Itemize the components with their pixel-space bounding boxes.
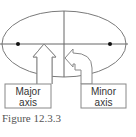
major-axis-label: Major axis xyxy=(5,86,51,108)
minor-axis-label-line1: Minor xyxy=(81,86,126,97)
minor-axis-label: Minor axis xyxy=(81,86,126,108)
minor-axis-label-line2: axis xyxy=(81,97,126,108)
focus-right xyxy=(108,42,112,46)
figure-caption: Figure 12.3.3 xyxy=(2,112,61,124)
focus-left xyxy=(16,42,20,46)
major-axis-label-line2: axis xyxy=(5,97,51,108)
major-axis-label-line1: Major xyxy=(5,86,51,97)
minor-axis-arrow-icon xyxy=(65,49,92,84)
